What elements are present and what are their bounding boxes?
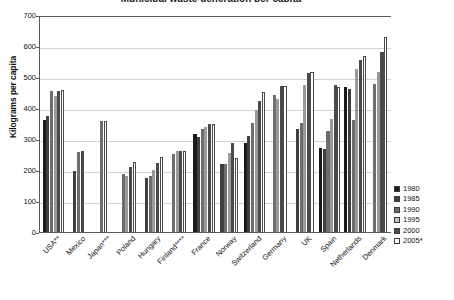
x-tick-label: Norway bbox=[214, 234, 238, 258]
bar bbox=[355, 69, 358, 233]
bar bbox=[247, 136, 250, 233]
y-tick-label: 600 bbox=[10, 43, 36, 50]
bar-group bbox=[319, 17, 341, 233]
bar bbox=[273, 95, 276, 233]
bar bbox=[323, 149, 326, 233]
bar-group bbox=[193, 17, 215, 233]
bar bbox=[258, 101, 261, 233]
bar bbox=[172, 154, 175, 233]
legend-swatch bbox=[394, 207, 400, 213]
bar bbox=[46, 116, 49, 233]
bar bbox=[244, 143, 247, 233]
bar bbox=[330, 119, 333, 233]
bar bbox=[183, 151, 186, 233]
bar bbox=[204, 127, 207, 233]
legend-item[interactable]: 1980 bbox=[394, 184, 423, 193]
bar bbox=[156, 163, 159, 233]
bar bbox=[262, 92, 265, 233]
legend-label: 2005* bbox=[403, 237, 423, 245]
y-tick-label: 300 bbox=[10, 136, 36, 143]
bar bbox=[296, 129, 299, 233]
bar bbox=[326, 131, 329, 233]
bar bbox=[344, 87, 347, 233]
bar bbox=[160, 157, 163, 233]
legend-item[interactable]: 1995 bbox=[394, 216, 423, 225]
bar-group bbox=[373, 17, 388, 233]
bar-group bbox=[145, 17, 163, 233]
bar bbox=[310, 72, 313, 233]
bar bbox=[363, 56, 366, 233]
legend-label: 1985 bbox=[403, 195, 420, 203]
bar-group bbox=[296, 17, 314, 233]
bar bbox=[193, 134, 196, 233]
legend-swatch bbox=[394, 217, 400, 223]
bar bbox=[334, 85, 337, 233]
legend-label: 1980 bbox=[403, 185, 420, 193]
bar bbox=[197, 137, 200, 233]
x-tick-label: Germany bbox=[260, 234, 288, 262]
x-tick-label: Poland bbox=[114, 234, 137, 257]
plot-area bbox=[39, 16, 391, 233]
bar bbox=[380, 52, 383, 233]
y-tick-label: 100 bbox=[10, 198, 36, 205]
bar bbox=[373, 84, 376, 233]
legend-item[interactable]: 1985 bbox=[394, 195, 423, 204]
bar bbox=[43, 120, 46, 233]
bar-group bbox=[100, 17, 107, 233]
bar bbox=[220, 164, 223, 233]
x-axis-labels: USA**MexicoJapan***PolandHungaryFinland*… bbox=[0, 234, 454, 298]
bar bbox=[231, 143, 234, 233]
bar bbox=[224, 164, 227, 233]
legend-item[interactable]: 2005* bbox=[394, 237, 423, 246]
y-tick-label: 200 bbox=[10, 167, 36, 174]
legend-item[interactable]: 2000 bbox=[394, 226, 423, 235]
bar-group bbox=[122, 17, 137, 233]
bar bbox=[208, 124, 211, 233]
bar bbox=[300, 123, 303, 233]
y-tick-label: 700 bbox=[10, 12, 36, 19]
bar bbox=[100, 121, 103, 233]
bar bbox=[57, 91, 60, 233]
bar bbox=[81, 151, 84, 233]
bar-group bbox=[344, 17, 366, 233]
chart-legend: 198019851990199520002005* bbox=[394, 184, 423, 246]
bar bbox=[276, 99, 279, 233]
legend-swatch bbox=[394, 196, 400, 202]
bar bbox=[179, 151, 182, 233]
bar bbox=[152, 170, 155, 233]
bar-group bbox=[273, 17, 288, 233]
bar bbox=[283, 86, 286, 233]
bar bbox=[201, 129, 204, 233]
bar bbox=[61, 90, 64, 233]
bar bbox=[377, 72, 380, 234]
x-tick-label: USA** bbox=[41, 234, 62, 255]
bar bbox=[104, 121, 107, 233]
legend-label: 1990 bbox=[403, 206, 420, 214]
bar bbox=[384, 37, 387, 233]
bar bbox=[359, 60, 362, 233]
x-tick-label: Japan*** bbox=[85, 234, 112, 261]
bar bbox=[54, 96, 57, 233]
bar bbox=[125, 176, 128, 233]
bar bbox=[319, 148, 322, 233]
x-tick-label: Spain bbox=[319, 234, 339, 254]
bar bbox=[133, 162, 136, 233]
bar-group bbox=[244, 17, 266, 233]
x-axis-line bbox=[39, 232, 391, 233]
x-tick-label: Mexico bbox=[64, 234, 87, 257]
bar bbox=[73, 171, 76, 233]
legend-label: 1995 bbox=[403, 216, 420, 224]
bar bbox=[303, 85, 306, 233]
y-tick-label: 500 bbox=[10, 74, 36, 81]
y-tick-label: 400 bbox=[10, 105, 36, 112]
bar bbox=[212, 124, 215, 233]
bar bbox=[348, 89, 351, 233]
bar bbox=[149, 176, 152, 233]
legend-item[interactable]: 1990 bbox=[394, 205, 423, 214]
x-tick-label: Denmark bbox=[361, 234, 389, 262]
bar bbox=[145, 178, 148, 233]
bar bbox=[77, 152, 80, 233]
bar bbox=[228, 153, 231, 233]
legend-label: 2000 bbox=[403, 227, 420, 235]
bar bbox=[176, 151, 179, 233]
